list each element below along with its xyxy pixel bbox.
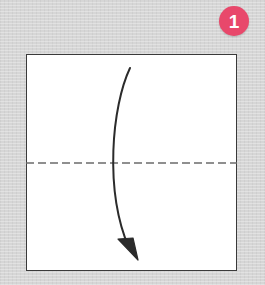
step-number-label: 1 (229, 12, 240, 31)
origami-step-diagram: 1 (0, 0, 265, 285)
paper-square (26, 54, 237, 271)
step-number-badge: 1 (219, 6, 249, 36)
